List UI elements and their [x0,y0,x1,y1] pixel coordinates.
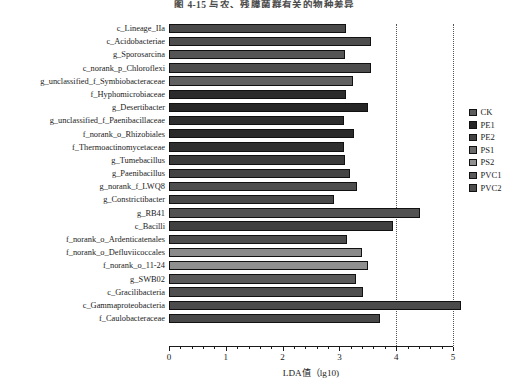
x-tick-0 [169,347,170,351]
y-axis-label-text: g_Desertibacter [112,101,165,114]
legend-label: CK [481,106,493,119]
bar-pe2 [169,24,346,33]
x-minor-tick [192,347,193,349]
x-minor-tick [442,347,443,349]
x-minor-tick [249,347,250,349]
x-minor-tick [328,347,329,349]
bar-row: f_norank_o_Rhizobiales [0,128,529,141]
legend-swatch-icon [469,159,477,167]
bar-pe2 [169,195,334,204]
y-axis-label-text: f_norank_o_11-24 [103,259,165,272]
x-tick-label: 2 [280,352,285,362]
y-axis-label-text: g_Paenibacillus [112,167,165,180]
legend-item-ps1[interactable]: PS1 [469,144,527,157]
legend-item-pe2[interactable]: PE2 [469,131,527,144]
x-minor-tick [362,347,363,349]
bar-row: g_Sporosarcina [0,48,529,61]
bar-pvc2 [169,301,461,310]
x-tick-label: 5 [451,352,456,362]
y-axis-label-text: f_norank_o_Rhizobiales [83,128,165,141]
legend-label: PS2 [481,156,495,169]
bar-row: f_Caulobacteraceae [0,312,529,325]
bar-pe2 [169,63,371,72]
y-axis-label-text: g_Constrictibacter [103,193,165,206]
x-minor-tick [385,347,386,349]
legend-label: PS1 [481,144,495,157]
bar-row: c_Acidobacteriae [0,35,529,48]
legend-swatch-icon [469,134,477,142]
x-tick-label: 4 [394,352,399,362]
x-minor-tick [305,347,306,349]
x-minor-tick [271,347,272,349]
x-tick-5 [453,347,454,351]
bar-pvc2 [169,182,357,191]
bar-ps2 [169,248,362,257]
x-minor-tick [237,347,238,349]
y-axis-label-text: c_Acidobacteriae [106,35,165,48]
x-minor-tick [260,347,261,349]
y-axis-label-text: g_unclassified_f_Paenibacillaceae [50,114,165,127]
bar-pe1 [169,103,368,112]
bar-row: g_Desertibacter [0,101,529,114]
x-minor-tick [294,347,295,349]
bar-pvc2 [169,314,380,323]
bar-rows: c_Lineage_IIac_Acidobacteriaeg_Sporosarc… [0,22,529,345]
bar-pe1 [169,116,344,125]
x-minor-tick [203,347,204,349]
legend: CKPE1PE2PS1PS2PVC1PVC2 [469,106,527,194]
bar-row: c_Gracilibacteria [0,286,529,299]
y-axis-label-text: g_SWB02 [130,273,165,286]
legend-label: PVC1 [481,169,502,182]
x-minor-tick [430,347,431,349]
y-axis-label-text: g_norank_f_LWQ8 [100,180,165,193]
legend-item-ps2[interactable]: PS2 [469,156,527,169]
x-minor-tick [214,347,215,349]
y-axis-label-text: c_Bacilli [135,220,165,233]
bar-row: g_RB41 [0,207,529,220]
bar-pvc1 [169,274,356,283]
bar-row: c_Bacilli [0,220,529,233]
bar-pe1 [169,129,354,138]
legend-swatch-icon [469,121,477,129]
bar-pvc1 [169,287,363,296]
x-minor-tick [317,347,318,349]
legend-item-pe1[interactable]: PE1 [469,119,527,132]
legend-label: PVC2 [481,182,502,195]
bar-row: f_norank_o_Ardenticatenales [0,233,529,246]
y-axis-label-text: f_Hyphomicrobiaceae [91,88,165,101]
bar-row: f_norank_o_Defluviicoccales [0,246,529,259]
y-axis-label-text: f_norank_o_Defluviicoccales [66,246,165,259]
legend-item-pvc2[interactable]: PVC2 [469,182,527,195]
legend-item-ck[interactable]: CK [469,106,527,119]
bar-pe1 [169,142,344,151]
bar-pe2 [169,221,393,230]
y-axis-label-text: g_unclassified_f_Symbiobacteraceae [40,75,165,88]
bar-row: f_norank_o_11-24 [0,259,529,272]
legend-swatch-icon [469,172,477,180]
bar-row: g_unclassified_f_Paenibacillaceae [0,114,529,127]
bar-pvc2 [169,208,420,217]
x-axis-title: LDA值（lg10) [169,365,453,379]
y-axis-label-text: f_Caulobacteraceae [99,312,165,325]
y-axis-label-text: c_Gracilibacteria [107,286,165,299]
bar-row: c_Gammaproteobacteria [0,299,529,312]
bar-row: c_Lineage_IIa [0,22,529,35]
y-axis-label-text: c_Lineage_IIa [117,22,165,35]
x-minor-tick [373,347,374,349]
x-tick-3 [339,347,340,351]
bar-pe1 [169,90,346,99]
x-tick-2 [283,347,284,351]
x-tick-4 [396,347,397,351]
bar-row: g_Paenibacillus [0,167,529,180]
bar-row: g_Constrictibacter [0,193,529,206]
legend-label: PE1 [481,119,495,132]
legend-item-pvc1[interactable]: PVC1 [469,169,527,182]
bar-row: f_Hyphomicrobiaceae [0,88,529,101]
bar-row: g_unclassified_f_Symbiobacteraceae [0,75,529,88]
x-tick-1 [226,347,227,351]
y-axis-label-text: g_Sporosarcina [113,48,165,61]
legend-swatch-icon [469,146,477,154]
y-axis-label-text: f_Thermoactinomycetaceae [72,141,165,154]
bar-pe2 [169,37,371,46]
bar-pvc2 [169,50,345,59]
